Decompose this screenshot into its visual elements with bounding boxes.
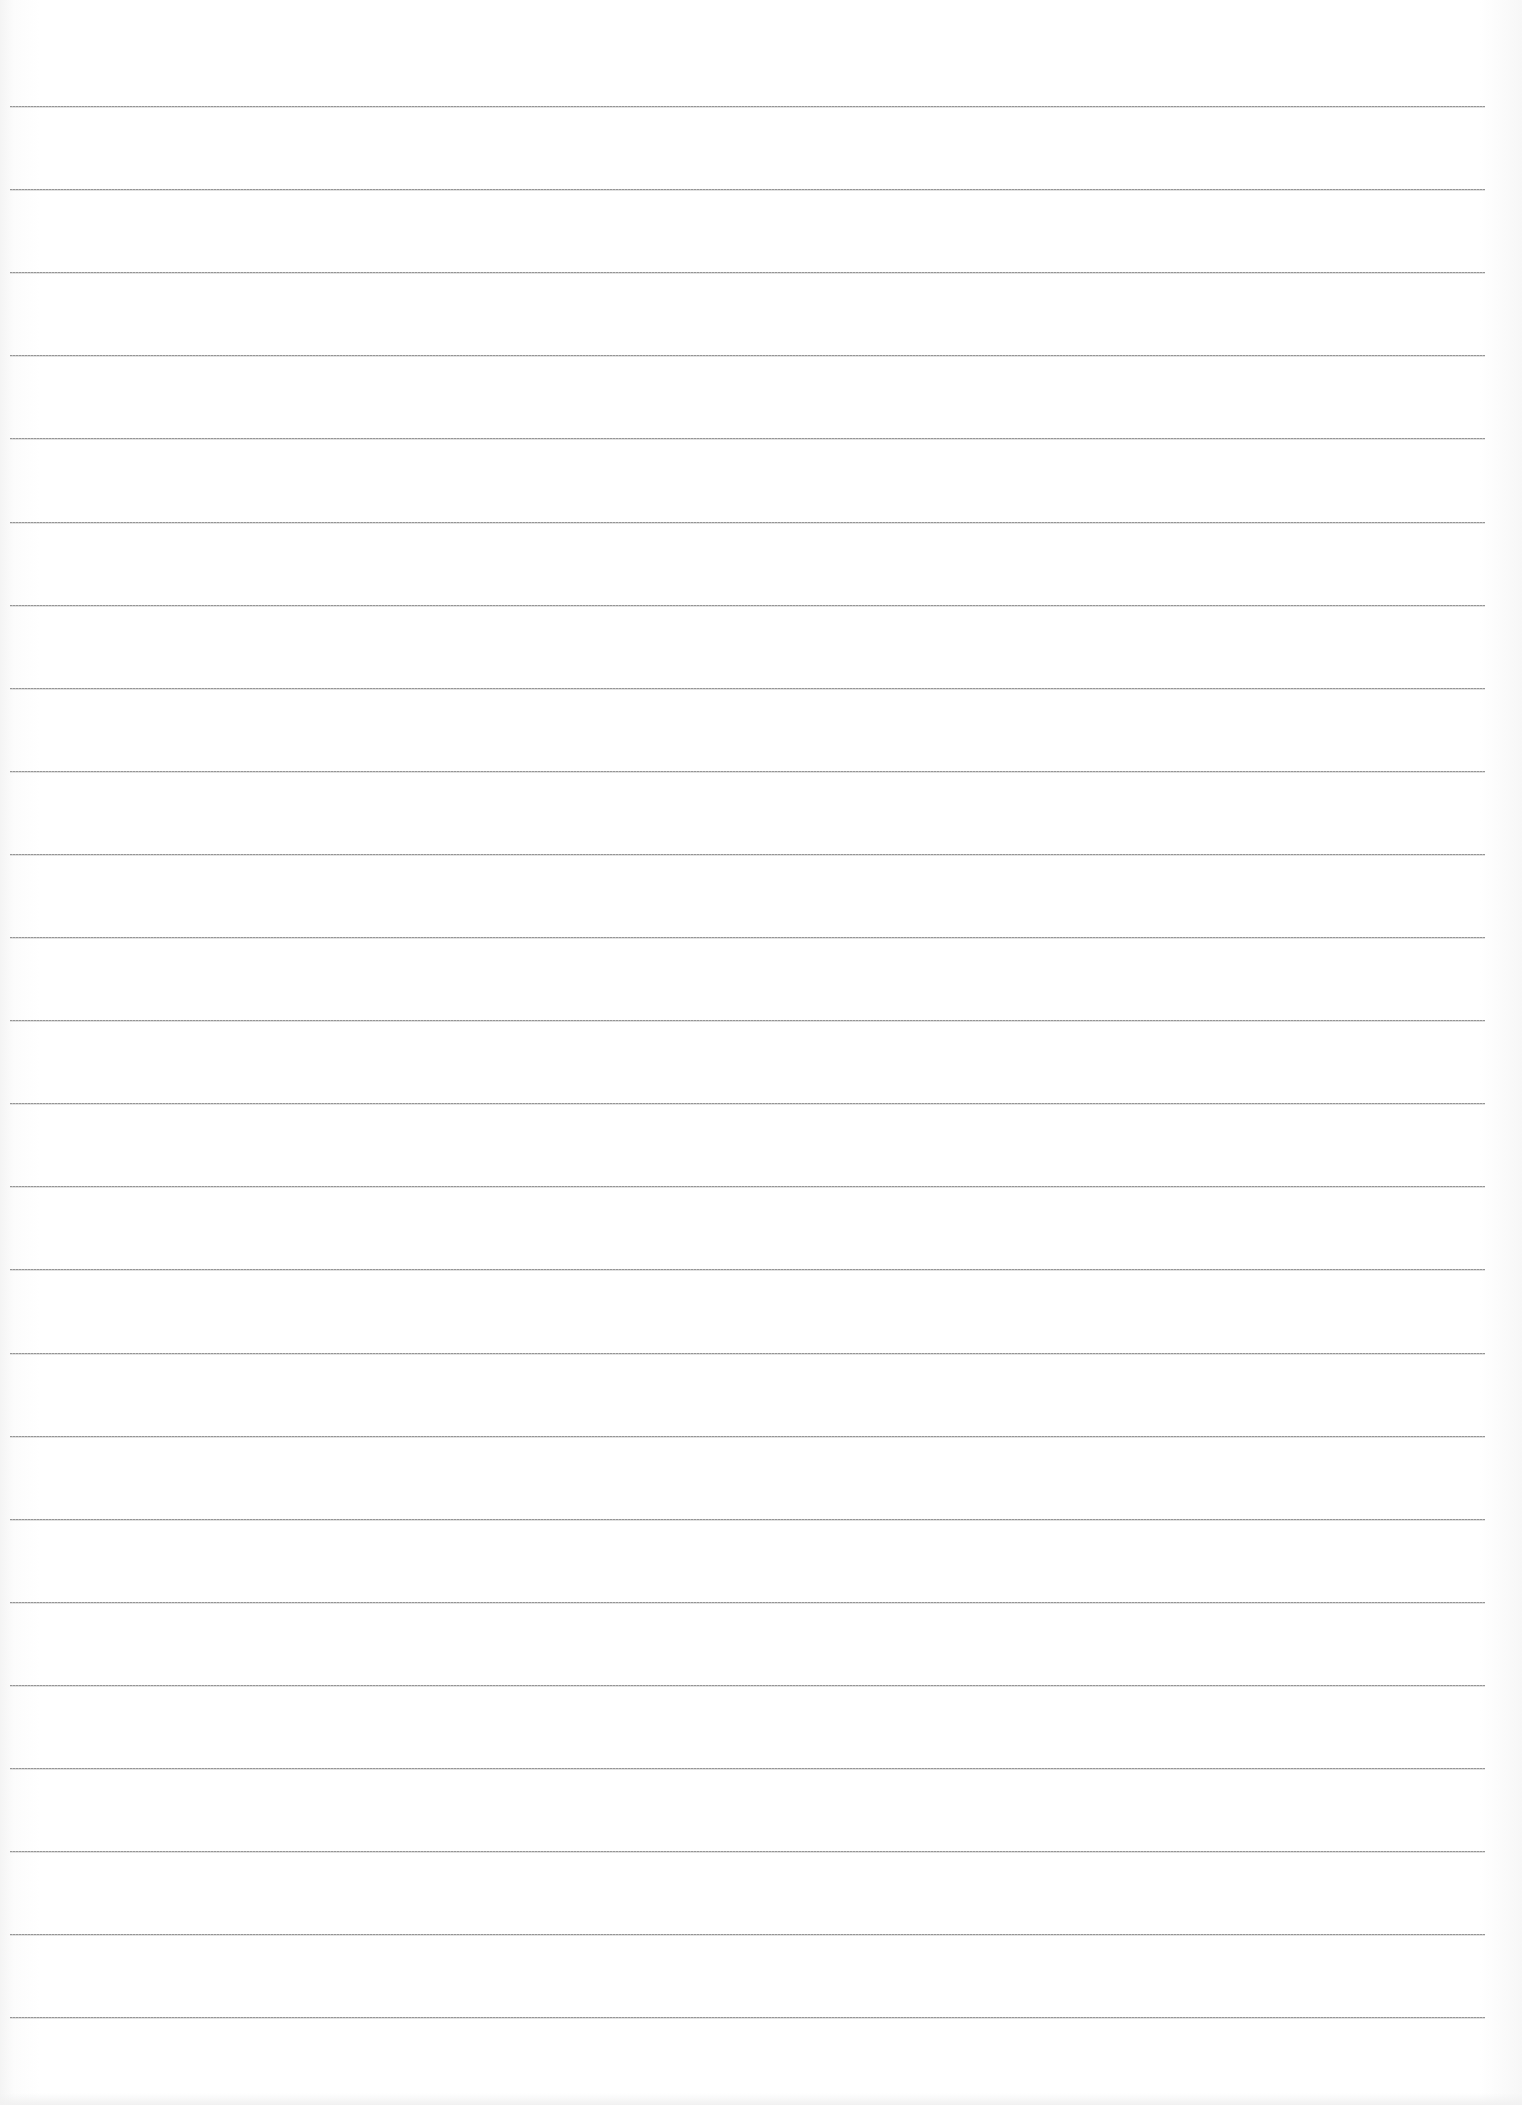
ruled-line bbox=[10, 1768, 1485, 1769]
ruled-line bbox=[10, 522, 1485, 523]
ruled-line bbox=[10, 605, 1485, 606]
ruled-line bbox=[10, 1353, 1485, 1354]
ruled-line bbox=[10, 1103, 1485, 1104]
ruled-line bbox=[10, 937, 1485, 938]
ruled-line bbox=[10, 854, 1485, 855]
ruled-line bbox=[10, 1020, 1485, 1021]
ruled-line bbox=[10, 1602, 1485, 1603]
lined-paper-page bbox=[0, 0, 1522, 2105]
ruled-line bbox=[10, 1685, 1485, 1686]
ruled-line bbox=[10, 1851, 1485, 1852]
ruled-line bbox=[10, 688, 1485, 689]
ruled-line bbox=[10, 1186, 1485, 1187]
ruled-line bbox=[10, 106, 1485, 107]
ruled-line bbox=[10, 771, 1485, 772]
ruled-line bbox=[10, 438, 1485, 439]
ruled-line bbox=[10, 1934, 1485, 1935]
ruled-line bbox=[10, 189, 1485, 190]
ruled-line bbox=[10, 1269, 1485, 1270]
ruled-line bbox=[10, 355, 1485, 356]
ruled-line bbox=[10, 272, 1485, 273]
scan-noise bbox=[0, 2093, 1522, 2105]
ruled-line bbox=[10, 1436, 1485, 1437]
ruled-line bbox=[10, 1519, 1485, 1520]
ruled-line bbox=[10, 2017, 1485, 2018]
